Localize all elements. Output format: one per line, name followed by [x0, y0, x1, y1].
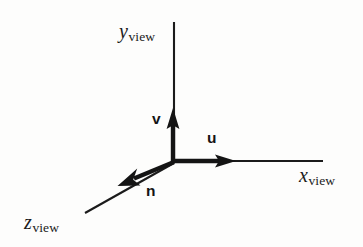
x-view-axis-subscript: view — [308, 173, 335, 188]
x-view-axis-label: xview — [299, 165, 335, 187]
y-view-axis-label: yview — [119, 21, 155, 43]
y-view-axis-base: y — [119, 20, 128, 42]
z-view-axis-line — [85, 163, 174, 213]
axes-and-vectors-canvas — [0, 0, 363, 247]
viewing-coordinate-frame-diagram: yview xview zview v u n — [0, 0, 363, 247]
z-view-axis-subscript: view — [32, 220, 59, 235]
v-vector-label: v — [152, 111, 161, 127]
n-vector-shaft — [134, 162, 174, 179]
x-view-axis-base: x — [299, 164, 308, 186]
u-vector-label: u — [207, 130, 216, 146]
z-view-axis-base: z — [24, 211, 32, 233]
y-view-axis-subscript: view — [128, 29, 155, 44]
n-vector-label: n — [146, 183, 155, 199]
z-view-axis-label: zview — [24, 212, 59, 234]
